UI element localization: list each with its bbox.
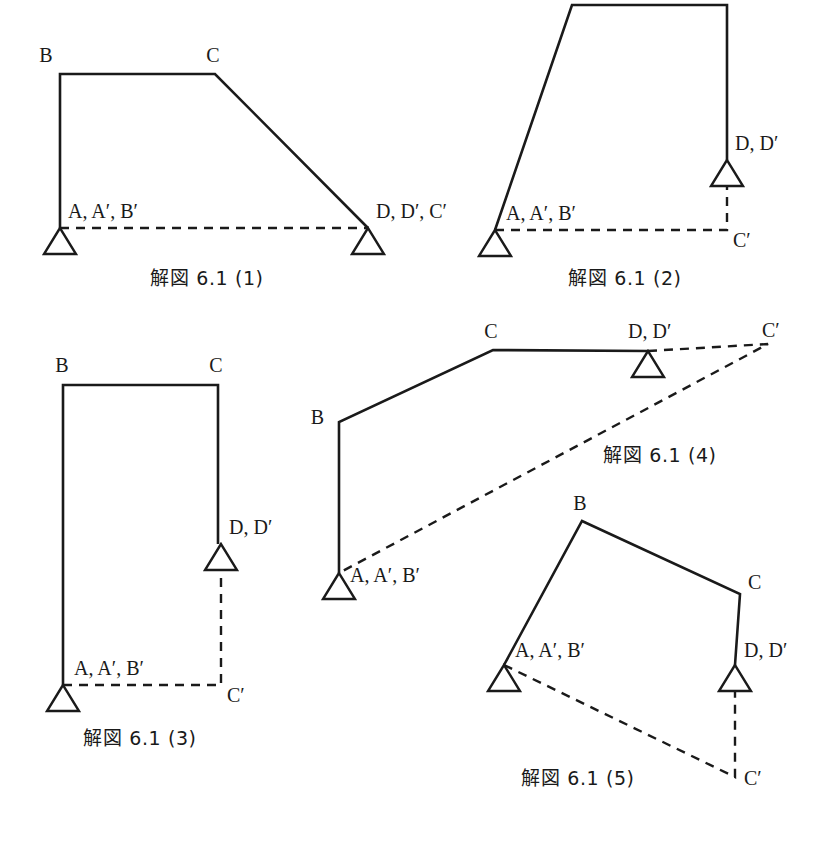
joint-label: C (209, 354, 222, 376)
frame-diagram-3: BCA, A′, B′D, D′C′解図 6.1 (3) (47, 354, 272, 749)
joint-label: B (311, 406, 324, 428)
frame-member-line-2 (495, 5, 727, 230)
figure-caption-4: 解図 6.1 (4) (603, 444, 716, 466)
joint-label: C (206, 44, 219, 66)
joint-label: C (748, 571, 761, 593)
frame-diagram-1: BCA, A′, B′D, D′, C′解図 6.1 (1) (39, 44, 447, 289)
joint-label: C′ (733, 229, 751, 251)
joint-label: C (721, 0, 734, 4)
joint-label: D, D′, C′ (376, 200, 447, 222)
figure-caption-1: 解図 6.1 (1) (150, 267, 263, 289)
support-a-5-icon (488, 665, 520, 691)
frame-member-line-4 (339, 350, 648, 573)
support-d-1-icon (352, 228, 384, 254)
frame-diagram-2: BCA, A′, B′D, D′C′解図 6.1 (2) (479, 0, 778, 289)
figure-canvas: BCA, A′, B′D, D′, C′解図 6.1 (1)BCA, A′, B… (0, 0, 837, 844)
support-a-3-icon (47, 685, 79, 711)
joint-label: D, D′ (229, 516, 272, 538)
support-a-2-icon (479, 230, 511, 256)
support-d-4-icon (632, 351, 664, 377)
joint-label: D, D′ (744, 639, 787, 661)
support-a-1-icon (44, 228, 76, 254)
joint-label: B (563, 0, 576, 4)
frame-diagram-5: BCA, A′, B′D, D′C′解図 6.1 (5) (488, 492, 787, 789)
joint-label: B (573, 492, 586, 514)
figure-caption-2: 解図 6.1 (2) (568, 267, 681, 289)
joint-label: A, A′, B′ (515, 639, 585, 661)
joint-label: D, D′ (628, 320, 671, 342)
joint-label: A, A′, B′ (506, 202, 576, 224)
joint-label: C′ (227, 684, 245, 706)
joint-label: C (484, 320, 497, 342)
frame-diagram-4: CBD, D′C′A, A′, B′解図 6.1 (4) (311, 319, 780, 599)
support-d-3-icon (205, 544, 237, 570)
frame-member-line-3 (63, 385, 218, 685)
support-d-2-icon (711, 160, 743, 186)
joint-label: B (55, 354, 68, 376)
figure-caption-5: 解図 6.1 (5) (521, 767, 634, 789)
displacement-line-5 (504, 665, 735, 777)
figure-caption-3: 解図 6.1 (3) (83, 727, 196, 749)
joint-label: B (39, 44, 52, 66)
joint-label: A, A′, B′ (350, 564, 420, 586)
support-d-5-icon (719, 665, 751, 691)
joint-label: A, A′, B′ (74, 657, 144, 679)
joint-label: A, A′, B′ (68, 200, 138, 222)
joint-label: C′ (762, 319, 780, 341)
joint-label: D, D′ (735, 132, 778, 154)
joint-label: C′ (744, 767, 762, 789)
